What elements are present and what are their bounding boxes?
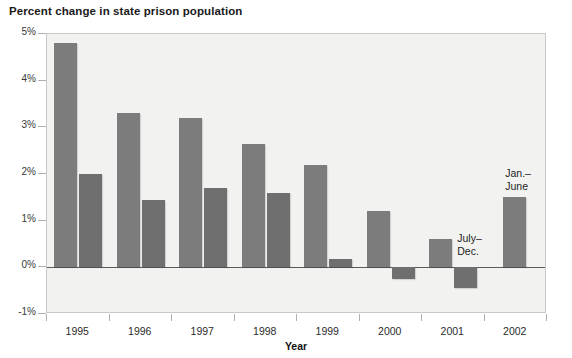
x-tick-mark [171, 314, 172, 321]
bar-1995-july-dec [79, 174, 102, 267]
x-tick-mark [484, 314, 485, 321]
bar-2002-jan-june [503, 197, 526, 267]
x-tick-label: 1995 [53, 325, 101, 337]
y-tick-label: 0% [22, 259, 36, 270]
page-bleed-marks [554, 186, 570, 281]
bar-1998-jan-june [242, 144, 265, 268]
x-tick-mark [109, 314, 110, 321]
x-tick-mark [359, 314, 360, 321]
bar-2001-july-dec [454, 267, 477, 288]
bar-1996-july-dec [142, 200, 165, 268]
x-tick-label: 1996 [116, 325, 164, 337]
x-tick-mark [296, 314, 297, 321]
plot-area: July– Dec.Jan.– June [46, 33, 546, 313]
bar-1998-july-dec [267, 193, 290, 268]
bar-1999-july-dec [329, 259, 352, 267]
y-tick-mark [38, 266, 46, 267]
x-tick-label: 1999 [303, 325, 351, 337]
y-tick-mark [38, 80, 46, 81]
y-tick-label: 5% [22, 26, 36, 37]
bar-1999-jan-june [304, 165, 327, 268]
prison-population-chart: Percent change in state prison populatio… [0, 0, 572, 358]
x-tick-label: 1997 [178, 325, 226, 337]
x-tick-mark [546, 314, 547, 321]
y-tick-mark [38, 33, 46, 34]
bar-2000-jan-june [367, 211, 390, 267]
bar-1997-jan-june [179, 118, 202, 267]
y-tick-mark [38, 126, 46, 127]
y-tick-mark [38, 173, 46, 174]
x-tick-label: 1998 [241, 325, 289, 337]
jan-june-annotation: Jan.– June [505, 167, 531, 193]
x-tick-label: 2000 [366, 325, 414, 337]
y-tick-mark [38, 313, 46, 314]
bar-2001-jan-june [429, 239, 452, 267]
y-tick-mark [38, 220, 46, 221]
july-dec-annotation: July– Dec. [457, 232, 482, 258]
bar-1997-july-dec [204, 188, 227, 267]
y-tick-label: -1% [18, 306, 36, 317]
bar-1996-jan-june [117, 113, 140, 267]
x-axis-title: Year [46, 340, 546, 352]
x-tick-mark [234, 314, 235, 321]
y-tick-label: 2% [22, 166, 36, 177]
y-tick-label: 3% [22, 119, 36, 130]
bar-2000-july-dec [392, 267, 415, 279]
y-axis: 5%4%3%2%1%0%-1% [0, 0, 46, 358]
x-tick-label: 2001 [428, 325, 476, 337]
x-tick-mark [46, 314, 47, 321]
bar-1995-jan-june [54, 43, 77, 267]
x-tick-label: 2002 [491, 325, 539, 337]
y-tick-label: 1% [22, 213, 36, 224]
y-tick-label: 4% [22, 73, 36, 84]
x-tick-mark [421, 314, 422, 321]
